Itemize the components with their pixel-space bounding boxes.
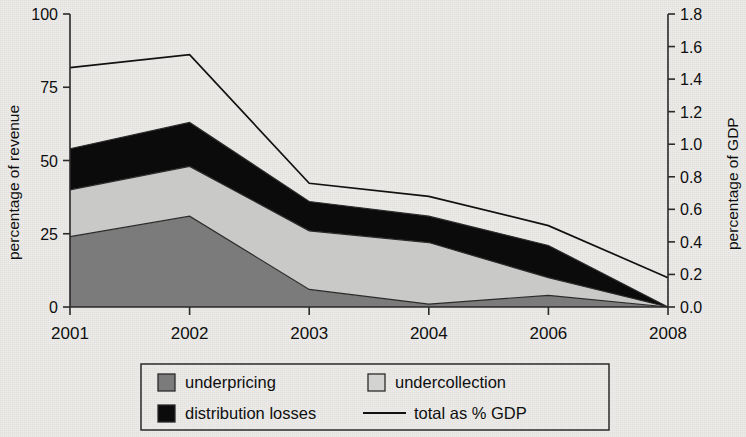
x-tick-label: 2003	[290, 324, 328, 343]
y-axis-left-title: percentage of revenue	[5, 105, 22, 260]
x-tick-label: 2008	[649, 324, 687, 343]
y-left-tick-label: 50	[40, 153, 58, 170]
y-left-tick-label: 75	[40, 79, 58, 96]
y-left-tick-label: 0	[49, 299, 58, 316]
legend-label-distribution-losses: distribution losses	[185, 404, 316, 422]
legend-label-undercollection: undercollection	[395, 373, 506, 391]
y-right-tick-label: 1.2	[680, 104, 702, 121]
y-right-tick-label: 1.6	[680, 39, 702, 56]
legend-swatch-undercollection	[368, 374, 385, 391]
y-axis-right-title: percentage of GDP	[724, 117, 741, 250]
legend-label-underpricing: underpricing	[185, 373, 276, 391]
x-tick-label: 2004	[410, 324, 448, 343]
y-right-tick-label: 0.8	[680, 169, 702, 186]
legend-label-total-gdp: total as % GDP	[414, 404, 527, 422]
y-right-tick-label: 0.4	[680, 234, 702, 251]
y-right-tick-label: 1.8	[680, 6, 702, 23]
legend-swatch-underpricing	[158, 374, 175, 391]
x-tick-label: 2002	[171, 324, 209, 343]
y-left-tick-label: 25	[40, 226, 58, 243]
y-right-tick-label: 1.0	[680, 136, 702, 153]
y-right-tick-label: 0.0	[680, 299, 702, 316]
x-tick-label: 2001	[51, 324, 89, 343]
area-series-group	[70, 122, 668, 307]
stacked-area-chart: 02550751000.00.20.40.60.81.01.21.41.61.8…	[0, 0, 746, 437]
x-tick-label: 2006	[529, 324, 567, 343]
legend-swatch-distribution-losses	[158, 405, 175, 422]
y-right-tick-label: 0.6	[680, 201, 702, 218]
y-right-tick-label: 0.2	[680, 266, 702, 283]
y-left-tick-label: 100	[31, 6, 58, 23]
chart-page: 02550751000.00.20.40.60.81.01.21.41.61.8…	[0, 0, 746, 437]
chart-legend: underpricing undercollection distributio…	[141, 364, 609, 430]
y-right-tick-label: 1.4	[680, 71, 702, 88]
